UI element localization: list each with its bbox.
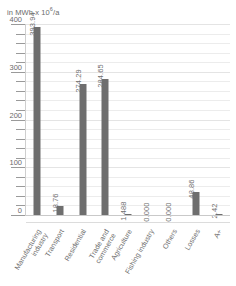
bar-value-label-wrap: 1.488 [119,202,128,221]
bar-slot: 48.86 [185,24,208,215]
bar-value-label: 48.86 [187,179,196,198]
bar-value-label: 0.000 [142,202,151,221]
bar-slot: 18.76 [49,24,72,215]
bar-value-label: 2.42 [210,203,219,218]
bar [102,79,109,215]
y-tick-label: 100 [0,158,22,167]
x-axis-baseline [26,215,230,216]
y-tick-major [11,72,25,73]
y-tick-minor [16,148,25,149]
category-label: A+ [207,226,230,284]
y-tick-label: 200 [0,111,22,120]
y-tick-minor [16,81,25,82]
category-label: Others [162,226,185,284]
y-tick-minor [16,91,25,92]
bar-value-label-wrap: 48.86 [187,179,196,198]
bar [34,27,41,215]
bar-slot: 1.488 [117,24,140,215]
bar-value-label-wrap: 0.000 [164,202,173,221]
bar-value-label: 0.000 [164,202,173,221]
bar-slot: 0.000 [162,24,185,215]
bar-value-label-wrap: 2.42 [210,203,219,218]
bar-value-label-wrap: 284.65 [96,64,105,88]
y-tick-label: 0 [0,206,22,215]
y-tick-minor [16,34,25,35]
y-tick-minor [16,186,25,187]
y-tick-minor [16,129,25,130]
y-tick-minor [16,177,25,178]
y-tick-minor [16,100,25,101]
bar-slot: 2.42 [207,24,230,215]
bar-slot: 393.94 [26,24,49,215]
bar-slot: 0.000 [139,24,162,215]
y-tick-label: 400 [0,15,22,24]
bar-series: 393.9418.76274.29284.651.4880.0000.00048… [26,24,230,215]
category-label: Fishing industry [139,226,162,284]
y-tick-major [11,120,25,121]
category-label-text: Losses [183,228,201,252]
y-tick-minor [16,43,25,44]
unit-caption-suffix: /a [53,8,59,17]
bar-chart: in MWh x 106/a 4003002001000 393.9418.76… [0,0,236,286]
bar-value-label: 1.488 [119,202,128,221]
bar-value-label: 274.29 [74,69,83,93]
bar-slot: 274.29 [71,24,94,215]
bar-value-label: 284.65 [96,64,105,88]
y-tick-major [11,24,25,25]
y-tick-major [11,215,25,216]
category-label-line: A+ [212,228,224,240]
bar-value-label-wrap: 18.76 [51,193,60,212]
bar [79,84,86,215]
x-axis-category-labels: ManufacturingindustryTransportResidentia… [26,226,230,286]
bar-value-label-wrap: 274.29 [74,69,83,93]
x-axis-baseline-secondary [26,222,230,223]
category-label-text: A+ [213,228,225,240]
bar-value-label-wrap: 393.94 [28,12,37,36]
category-label-text: Others [161,228,179,251]
bar-value-label: 18.76 [51,193,60,212]
y-tick-minor [16,53,25,54]
y-tick-minor [16,139,25,140]
y-tick-major [11,167,25,168]
y-tick-minor [16,196,25,197]
y-tick-label: 300 [0,63,22,72]
category-label-line: Losses [182,228,201,252]
bar-value-label-wrap: 0.000 [142,202,151,221]
category-label: Losses [185,226,208,284]
bar-value-label: 393.94 [28,12,37,36]
category-label-line: Others [160,228,179,251]
bar-slot: 284.65 [94,24,117,215]
